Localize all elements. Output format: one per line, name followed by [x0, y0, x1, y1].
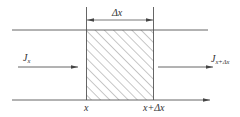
flux-in-label: Jx [23, 53, 30, 63]
flux-in-subscript: x [27, 57, 30, 64]
flux-out-subscript: x+Δx [215, 58, 229, 65]
axis-label-x-plus-delta: x+Δx [143, 103, 165, 113]
flux-diagram: Δx Jx Jx+Δx x x+Δx [0, 0, 240, 117]
control-volume [86, 30, 154, 100]
axis-label-x-text: x [84, 102, 88, 113]
axis-label-x: x [84, 103, 88, 113]
axis-label-x-plus-delta-text: x+Δx [143, 102, 165, 113]
flux-out-label: Jx+Δx [211, 54, 229, 64]
delta-x-label: Δx [112, 8, 122, 18]
delta-x-text: Δx [112, 7, 122, 18]
